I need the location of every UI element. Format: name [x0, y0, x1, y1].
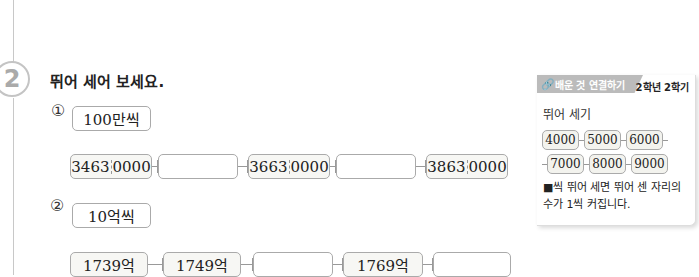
example-box: 8000: [589, 154, 626, 174]
part2-answer-box-1[interactable]: [253, 252, 333, 277]
part1-box-5: 38630000: [426, 154, 508, 179]
connector: [333, 264, 343, 265]
part2-box-4: 1769억: [343, 252, 423, 277]
part2-marker: ②: [50, 196, 64, 215]
panel-tag: 🔗 배운 것 연결하기: [537, 75, 643, 93]
part1-answer-box-2[interactable]: [336, 154, 416, 179]
section-line-top: [13, 0, 14, 62]
part2-box-2: 1749억: [163, 252, 241, 277]
section-line-bottom: [13, 98, 14, 275]
part2-answer-box-2[interactable]: [433, 252, 511, 277]
question-number: 2: [0, 61, 30, 97]
example-box: 5000: [584, 130, 621, 150]
example-box: 9000: [631, 154, 668, 174]
example-box: 6000: [626, 130, 663, 150]
connector: [241, 264, 253, 265]
connect-learning-panel: 🔗 배운 것 연결하기 2학년 2학기 뛰어 세기 4000 5000 6000…: [537, 75, 696, 226]
part1-marker: ①: [51, 101, 65, 120]
connector: [416, 166, 426, 167]
connector: [148, 264, 163, 265]
panel-heading: 뛰어 세기: [543, 105, 591, 122]
part2-step-label: 10억씩: [72, 203, 151, 228]
connector: [663, 140, 668, 141]
part1-step-label: 100만씩: [72, 106, 151, 131]
example-box: 4000: [542, 130, 579, 150]
part1-box-3: 36630000: [248, 154, 330, 179]
panel-note: ■씩 뛰어 세면 뛰어 센 자리의 수가 1씩 커집니다.: [543, 179, 693, 213]
connector: [423, 264, 433, 265]
part2-box-1: 1739억: [70, 252, 148, 277]
part1-box-1: 34630000: [70, 154, 152, 179]
panel-term: 2학년 2학기: [636, 79, 689, 94]
connector: [238, 166, 248, 167]
part1-answer-box-1[interactable]: [158, 154, 238, 179]
question-title: 뛰어 세어 보세요.: [50, 70, 164, 91]
link-icon: 🔗: [541, 78, 555, 91]
example-box: 7000: [547, 154, 584, 174]
